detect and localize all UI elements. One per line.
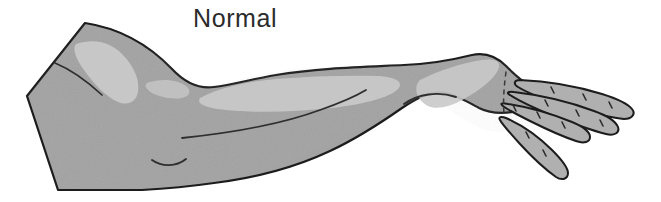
figure-root: Normal [0,0,661,202]
hand-group [499,72,633,179]
arm-illustration [0,0,661,202]
arm-body-group [0,0,661,202]
